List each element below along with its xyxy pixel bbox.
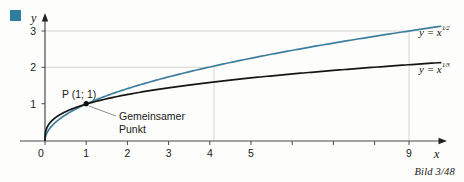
common-point-note-line2: Punkt <box>119 123 146 135</box>
function-plot: y x 3 2 1 0 1 2 3 4 5 9 y = x1⁄2 y = x1⁄… <box>0 0 464 182</box>
x-axis-label: x <box>433 147 440 161</box>
y-axis-label: y <box>30 11 37 25</box>
x-tick-label-9: 9 <box>406 147 412 159</box>
figure-container: y x 3 2 1 0 1 2 3 4 5 9 y = x1⁄2 y = x1⁄… <box>0 0 464 182</box>
curve-label-cbrt-exp-den: 3 <box>445 61 450 69</box>
x-tick-label-3: 3 <box>166 147 172 159</box>
y-tick-label-1: 1 <box>30 98 36 110</box>
x-tick-label-0: 0 <box>38 147 44 159</box>
gridlines-horizontal <box>45 31 409 67</box>
curve-label-sqrt-base: y = x <box>418 26 442 38</box>
x-tick-label-1: 1 <box>83 147 89 159</box>
y-tick-label-3: 3 <box>30 25 36 37</box>
common-point-note-line1: Gemeinsamer <box>119 110 185 122</box>
curve-label-sqrt: y = x1⁄2 <box>418 24 450 38</box>
curve-label-cbrt-base: y = x <box>418 63 442 75</box>
x-axis <box>20 138 447 145</box>
x-tick-label-2: 2 <box>124 147 130 159</box>
annotation-leader-line <box>89 106 116 116</box>
figure-caption: Bild 3/48 <box>414 166 455 177</box>
y-axis <box>42 13 49 141</box>
x-tick-label-5: 5 <box>248 147 254 159</box>
common-point-label: P (1; 1) <box>62 88 96 100</box>
curve-label-cbrt: y = x1⁄3 <box>418 61 450 75</box>
curve-label-sqrt-exp-den: 2 <box>446 24 450 32</box>
curve-sqrt <box>45 26 441 141</box>
y-tick-label-2: 2 <box>30 61 36 73</box>
x-tick-label-4: 4 <box>207 147 213 159</box>
common-point-dot <box>84 101 89 106</box>
curve-cbrt <box>45 63 441 141</box>
